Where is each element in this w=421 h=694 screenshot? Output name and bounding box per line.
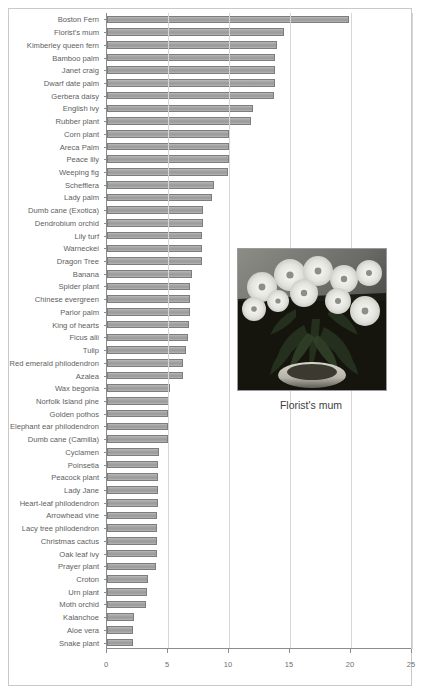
bar-row (107, 435, 411, 443)
bar-row (107, 473, 411, 481)
category-label: Bamboo palm (52, 53, 99, 62)
bar (107, 270, 192, 278)
bar-row (107, 194, 411, 202)
y-axis-tick (104, 465, 107, 466)
bar (107, 588, 147, 596)
bar (107, 601, 146, 609)
bar (107, 512, 157, 520)
bar-row (107, 601, 411, 609)
bar (107, 257, 202, 265)
bar (107, 295, 190, 303)
bar (107, 92, 274, 100)
bar-row (107, 423, 411, 431)
y-axis-tick (104, 592, 107, 593)
category-label: Ficus alii (69, 333, 99, 342)
y-axis-tick (104, 452, 107, 453)
y-axis-tick (104, 439, 107, 440)
y-axis-tick (104, 96, 107, 97)
bar (107, 181, 214, 189)
y-axis-tick (104, 261, 107, 262)
x-tick-label: 25 (407, 660, 415, 669)
category-axis-labels: Boston FernFlorist's mumKimberley queen … (9, 13, 104, 649)
category-label: Dendrobium orchid (35, 218, 99, 227)
y-axis-tick (104, 210, 107, 211)
chart-figure: Boston FernFlorist's mumKimberley queen … (8, 8, 412, 686)
category-label: Croton (76, 575, 99, 584)
category-label: Oak leaf ivy (59, 549, 99, 558)
category-label: Poinsetia (68, 460, 99, 469)
x-tick-label: 0 (104, 660, 108, 669)
y-axis-tick (104, 401, 107, 402)
category-label: Tulip (83, 346, 99, 355)
y-axis-tick (104, 32, 107, 33)
category-label: English ivy (63, 104, 99, 113)
bar-row (107, 512, 411, 520)
y-axis-tick (104, 579, 107, 580)
y-axis-tick (104, 83, 107, 84)
bar (107, 486, 158, 494)
bar-row (107, 168, 411, 176)
category-label: Wax begonia (55, 384, 99, 393)
x-axis-tick (289, 649, 290, 653)
category-label: Banana (73, 269, 99, 278)
bar (107, 359, 183, 367)
x-tick-label: 20 (346, 660, 354, 669)
bar (107, 194, 212, 202)
category-label: Dumb cane (Camilla) (28, 435, 99, 444)
bar (107, 423, 168, 431)
bar-row (107, 206, 411, 214)
bar-row (107, 105, 411, 113)
bar (107, 16, 349, 24)
bar-row (107, 550, 411, 558)
bar-row (107, 613, 411, 621)
category-label: Aloe vera (67, 625, 99, 634)
bar (107, 435, 168, 443)
bar (107, 346, 186, 354)
bar (107, 563, 156, 571)
category-label: Boston Fern (58, 15, 99, 24)
category-label: Heart-leaf philodendron (20, 498, 99, 507)
bar (107, 639, 133, 647)
y-axis-tick (104, 515, 107, 516)
x-axis-tick (411, 649, 412, 653)
y-axis-tick (104, 286, 107, 287)
bar-row (107, 486, 411, 494)
bar-row (107, 16, 411, 24)
bar (107, 105, 253, 113)
category-label: Warneckei (63, 244, 99, 253)
category-label: Prayer plant (58, 562, 99, 571)
y-axis-tick (104, 70, 107, 71)
inset-caption: Florist's mum (237, 399, 385, 411)
bar-row (107, 499, 411, 507)
bar-row (107, 588, 411, 596)
y-axis-tick (104, 490, 107, 491)
bar (107, 334, 188, 342)
category-label: Red emerald philodendron (10, 358, 100, 367)
bar (107, 499, 158, 507)
bar (107, 66, 275, 74)
y-axis-tick (104, 363, 107, 364)
bar-row (107, 232, 411, 240)
bar (107, 308, 190, 316)
category-label: Christmas cactus (41, 536, 99, 545)
category-label: Urn plant (68, 587, 99, 596)
category-label: Peace lily (67, 155, 100, 164)
category-label: Cyclamen (65, 447, 99, 456)
bar-row (107, 219, 411, 227)
category-label: Corn plant (64, 129, 99, 138)
x-tick-label: 15 (285, 660, 293, 669)
category-label: Dwarf date palm (44, 78, 99, 87)
category-label: Golden pothos (50, 409, 99, 418)
gridline (168, 13, 169, 649)
y-axis-tick (104, 426, 107, 427)
bar (107, 410, 168, 418)
category-label: Florist's mum (54, 28, 99, 37)
bar-row (107, 79, 411, 87)
category-label: Arrowhead vine (46, 511, 99, 520)
y-axis-tick (104, 325, 107, 326)
bar-row (107, 524, 411, 532)
gridline (229, 13, 230, 649)
bar-row (107, 448, 411, 456)
y-axis-tick (104, 197, 107, 198)
category-label: Rubber plant (56, 117, 99, 126)
